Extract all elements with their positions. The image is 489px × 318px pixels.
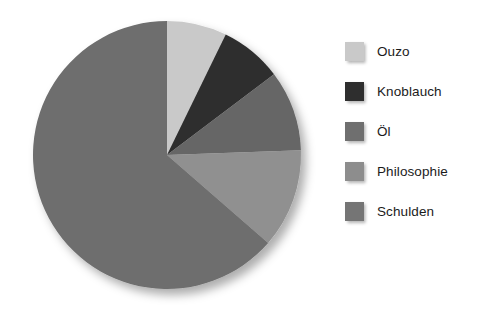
legend-swatch-knoblauch [345, 82, 364, 101]
legend-label-ouzo: Ouzo [377, 42, 410, 61]
pie-chart-figure: Ouzo Knoblauch Öl Philosophie Schulden [0, 0, 489, 318]
legend-item-schulden[interactable]: Schulden [345, 202, 489, 221]
legend-swatch-schulden [345, 202, 364, 221]
legend-item-knoblauch[interactable]: Knoblauch [345, 82, 489, 101]
legend-label-knoblauch: Knoblauch [377, 82, 442, 101]
legend-swatch-oel [345, 122, 364, 141]
legend-item-philosophie[interactable]: Philosophie [345, 162, 489, 181]
pie-slice-group [33, 21, 301, 289]
legend-item-oel[interactable]: Öl [345, 122, 489, 141]
pie-plot-area [0, 0, 340, 318]
chart-legend: Ouzo Knoblauch Öl Philosophie Schulden [345, 42, 489, 242]
legend-label-oel: Öl [377, 122, 391, 141]
legend-swatch-ouzo [345, 42, 364, 61]
legend-label-philosophie: Philosophie [377, 162, 448, 181]
pie-svg [0, 0, 340, 318]
legend-label-schulden: Schulden [377, 202, 434, 221]
legend-item-ouzo[interactable]: Ouzo [345, 42, 489, 61]
legend-swatch-philosophie [345, 162, 364, 181]
